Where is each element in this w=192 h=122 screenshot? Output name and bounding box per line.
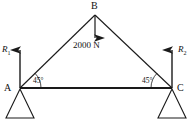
angle-label-a: 45°: [33, 77, 44, 85]
angle-arcs: [35, 73, 157, 88]
support-right: [158, 89, 186, 118]
reaction-left-subscript: 1: [8, 50, 11, 56]
reaction-label-left: R1: [2, 45, 11, 56]
vertex-label-a: A: [4, 83, 11, 93]
vertex-label-b: B: [91, 1, 98, 11]
figure-canvas: A B C R1 R2 45° 45° 2000 N: [0, 0, 192, 122]
member-ab: [20, 15, 95, 88]
vertex-label-c: C: [177, 83, 184, 93]
load-label: 2000 N: [73, 41, 100, 50]
reaction-label-right: R2: [178, 45, 187, 56]
support-left: [6, 89, 34, 118]
truss-diagram: [0, 0, 192, 122]
angle-label-c: 45°: [142, 77, 153, 85]
supports: [6, 89, 186, 118]
member-bc: [95, 15, 172, 88]
reaction-right-subscript: 2: [184, 50, 187, 56]
